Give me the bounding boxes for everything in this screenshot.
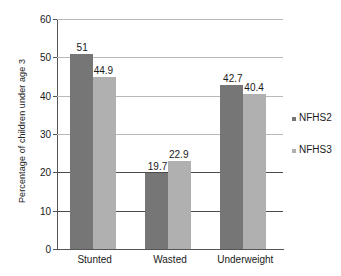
bar-NFHS2-Wasted[interactable] bbox=[145, 173, 168, 249]
y-tick-mark-40 bbox=[53, 96, 57, 97]
y-tick-mark-60 bbox=[53, 19, 57, 20]
y-tick-label: 10 bbox=[40, 205, 51, 216]
y-tick-label: 30 bbox=[40, 129, 51, 140]
x-category-label-underweight: Underweight bbox=[208, 254, 283, 265]
y-tick-label: 50 bbox=[40, 52, 51, 63]
y-tick-mark-20 bbox=[53, 172, 57, 173]
bar-group: 19.722.9 bbox=[145, 19, 191, 249]
x-axis-line bbox=[57, 249, 284, 250]
x-category-label-stunted: Stunted bbox=[57, 254, 132, 265]
y-tick-mark-30 bbox=[53, 134, 57, 135]
bar-group: 5144.9 bbox=[70, 19, 116, 249]
y-axis-title: Percentage of children under age 3 bbox=[17, 31, 27, 231]
bar-NFHS3-Wasted[interactable] bbox=[168, 161, 191, 249]
bar-value-label: 40.4 bbox=[244, 82, 275, 93]
y-tick-mark-0 bbox=[53, 249, 57, 250]
y-tick-label: 40 bbox=[40, 90, 51, 101]
bar-value-label: 51 bbox=[67, 42, 98, 53]
y-tick-label: 60 bbox=[40, 14, 51, 25]
bar-NFHS3-Stunted[interactable] bbox=[93, 77, 116, 249]
y-tick-mark-50 bbox=[53, 57, 57, 58]
legend-label: NFHS2 bbox=[299, 112, 332, 123]
legend-swatch-icon bbox=[292, 117, 296, 121]
y-tick-label: 0 bbox=[45, 244, 51, 255]
y-tick-mark-10 bbox=[53, 211, 57, 212]
bar-NFHS2-Stunted[interactable] bbox=[70, 54, 93, 250]
bar-NFHS2-Underweight[interactable] bbox=[220, 85, 243, 249]
bar-value-label: 44.9 bbox=[94, 65, 125, 76]
bar-group: 42.740.4 bbox=[220, 19, 266, 249]
y-tick-label: 20 bbox=[40, 167, 51, 178]
bar-chart: Percentage of children under age 3 01020… bbox=[0, 0, 341, 276]
bar-NFHS3-Underweight[interactable] bbox=[243, 94, 266, 249]
legend-swatch-icon bbox=[292, 149, 296, 153]
x-category-label-wasted: Wasted bbox=[132, 254, 207, 265]
legend-label: NFHS3 bbox=[299, 144, 332, 155]
bar-value-label: 22.9 bbox=[169, 149, 200, 160]
plot-area: 01020304050605144.919.722.942.740.4 bbox=[57, 19, 283, 249]
